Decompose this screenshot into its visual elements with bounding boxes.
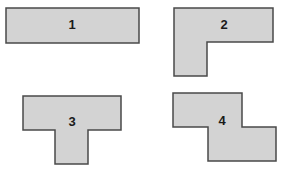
shape-4-label: 4 <box>218 113 226 128</box>
shape-2: 2 <box>174 8 273 76</box>
shape-3: 3 <box>23 96 121 164</box>
shape-1-label: 1 <box>68 17 75 32</box>
shape-1: 1 <box>6 8 139 43</box>
shape-2-label: 2 <box>220 17 227 32</box>
shapes-diagram: 1 2 3 4 <box>0 0 281 176</box>
shape-4: 4 <box>173 93 276 161</box>
shape-3-label: 3 <box>68 114 75 129</box>
